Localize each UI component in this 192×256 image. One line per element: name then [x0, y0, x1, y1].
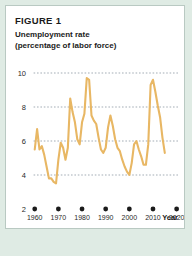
gridlines-group: [34, 73, 179, 175]
x-axis-tick-dot: [56, 207, 61, 212]
x-axis-tick-label: 2010: [145, 214, 161, 221]
x-axis-tick-dot: [32, 207, 37, 212]
x-axis-labels-group: 1960197019801990200020102020: [27, 214, 185, 221]
y-axis-tick-label: 2: [22, 205, 26, 214]
x-axis-tick-dot: [127, 207, 132, 212]
x-axis-tick-label: 1980: [74, 214, 90, 221]
y-axis-tick-label: 6: [22, 137, 26, 146]
y-axis-tick-label: 10: [18, 69, 26, 78]
x-axis-tick-label: 1970: [51, 214, 67, 221]
y-axis-tick-label: 8: [22, 103, 26, 112]
x-axis-tick-label: 1990: [98, 214, 114, 221]
x-axis-tick-label: 2000: [122, 214, 138, 221]
x-axis-tick-dot: [174, 207, 179, 212]
chart-plot-area: 108642 1960197019801990200020102020 Year: [6, 6, 185, 229]
unemployment-line-chart: 108642 1960197019801990200020102020 Year: [6, 6, 185, 229]
x-axis-tick-dots-group: [32, 207, 179, 212]
x-axis-tick-label: 1960: [27, 214, 43, 221]
x-axis-tick-dot: [103, 207, 108, 212]
y-axis-labels-group: 108642: [18, 69, 26, 214]
x-axis-tick-dot: [151, 207, 156, 212]
x-axis-tick-dot: [80, 207, 85, 212]
x-axis-title: Year: [162, 213, 178, 222]
unemployment-rate-line: [35, 78, 165, 183]
figure-card: FIGURE 1 Unemployment rate (percentage o…: [5, 5, 185, 229]
y-axis-tick-label: 4: [22, 171, 26, 180]
